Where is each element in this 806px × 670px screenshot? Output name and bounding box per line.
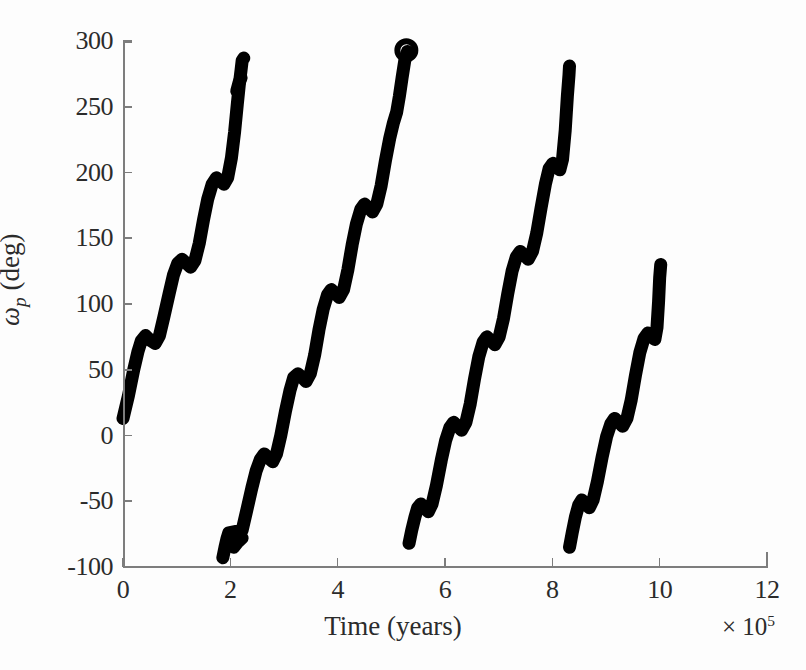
y-axis-subscript: p <box>9 297 30 307</box>
y-tick-300 <box>123 40 132 42</box>
x-axis-exponent: × 105 <box>722 612 775 641</box>
y-axis-symbol: ω <box>0 307 26 326</box>
x-tick-8 <box>552 558 554 567</box>
y-tick-150 <box>123 237 132 239</box>
y-tick-50 <box>123 369 132 371</box>
y-tick-label-250: 250 <box>1 92 113 122</box>
y-axis-title: ωp (deg) <box>0 130 31 430</box>
data-series-branch-3 <box>409 66 569 543</box>
data-series-branch-1-tail <box>237 78 241 91</box>
x-tick-label-12: 12 <box>727 575 806 605</box>
y-tick--50 <box>123 500 132 502</box>
y-axis-units-text: (deg) <box>0 233 25 290</box>
y-tick-0 <box>123 435 132 437</box>
data-series-branch-4 <box>570 265 661 548</box>
y-tick-200 <box>123 172 132 174</box>
x-tick-label-0: 0 <box>83 575 163 605</box>
data-series-branch-2-tail <box>234 538 243 547</box>
y-tick--100 <box>123 566 132 568</box>
x-axis-exponent-power: 5 <box>767 612 775 629</box>
plot-area <box>123 41 767 567</box>
x-tick-0 <box>122 558 124 567</box>
data-series-branch-1 <box>123 58 244 418</box>
x-tick-12 <box>766 558 768 567</box>
x-tick-label-8: 8 <box>512 575 592 605</box>
x-axis-title: Time (years) <box>0 611 806 642</box>
x-axis-exponent-prefix: × 10 <box>722 613 767 640</box>
y-tick-100 <box>123 303 132 305</box>
data-curve-svg <box>123 41 767 567</box>
x-tick-label-4: 4 <box>298 575 378 605</box>
x-tick-label-2: 2 <box>190 575 270 605</box>
data-series-branch-2 <box>223 52 408 558</box>
y-tick-label-300: 300 <box>1 26 113 56</box>
y-axis-units <box>0 290 25 297</box>
x-tick-6 <box>444 558 446 567</box>
x-tick-label-10: 10 <box>620 575 700 605</box>
y-tick-label--50: -50 <box>1 486 113 516</box>
x-tick-label-6: 6 <box>405 575 485 605</box>
figure-root: -100-50050100150200250300024681012 Time … <box>0 0 806 670</box>
x-tick-4 <box>337 558 339 567</box>
x-tick-10 <box>659 558 661 567</box>
y-tick-250 <box>123 106 132 108</box>
x-tick-2 <box>230 558 232 567</box>
